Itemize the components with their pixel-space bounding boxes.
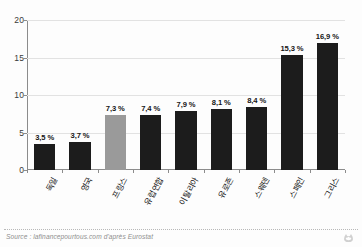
y-axis-tick-label: 20 (4, 15, 24, 25)
bar-group[interactable]: 15,3 % (281, 20, 302, 170)
bar[interactable] (281, 55, 302, 170)
x-axis-category-label: 프랑스 (108, 174, 130, 200)
bar-value-label: 8,1 % (212, 98, 231, 107)
bar-value-label: 3,5 % (35, 133, 54, 142)
x-axis-category-label: 영국 (77, 174, 95, 193)
brand-logo-icon (342, 233, 355, 243)
bar[interactable] (69, 142, 90, 170)
bar-group[interactable]: 3,5 % (34, 20, 55, 170)
bar-group[interactable]: 8,4 % (246, 20, 267, 170)
bar-group[interactable]: 16,9 % (317, 20, 338, 170)
y-axis-tick-label: 5 (4, 128, 24, 138)
bar-group[interactable]: 7,3 % (105, 20, 126, 170)
x-axis-category-label: 그리스 (320, 174, 342, 200)
x-axis-category-label: 스페인 (285, 174, 307, 200)
source-note: Source : lafinancepourtous.com d'après E… (6, 233, 153, 240)
bar-value-label: 7,3 % (106, 104, 125, 113)
chart-figure: 05101520 3,5 %3,7 %7,3 %7,4 %7,9 %8,1 %8… (0, 0, 362, 247)
bar-group[interactable]: 8,1 % (211, 20, 232, 170)
bar[interactable] (175, 111, 196, 170)
x-axis-tick-mark (204, 170, 205, 173)
x-axis-category-label: 독일 (41, 174, 59, 193)
bar[interactable] (317, 43, 338, 170)
bar-value-label: 8,4 % (247, 96, 266, 105)
bar[interactable] (211, 109, 232, 170)
x-axis-tick-mark (133, 170, 134, 173)
x-axis-category-label: 유로존 (214, 174, 236, 200)
x-axis-category-label: 유럽연합 (140, 174, 165, 207)
bar-value-label: 3,7 % (71, 131, 90, 140)
bar-value-label: 7,9 % (177, 100, 196, 109)
bar[interactable] (34, 144, 55, 170)
y-axis-tick-label: 15 (4, 53, 24, 63)
bar-value-label: 7,4 % (141, 104, 160, 113)
bar[interactable] (105, 115, 126, 170)
x-axis-tick-mark (274, 170, 275, 173)
bar-value-label: 15,3 % (280, 44, 303, 53)
x-axis-category-label: 스웨덴 (250, 174, 272, 200)
bar-group[interactable]: 7,9 % (175, 20, 196, 170)
x-axis-category-label: 이탈리아 (175, 174, 200, 207)
x-axis-tick-mark (345, 170, 346, 173)
x-axis-tick-mark (98, 170, 99, 173)
x-axis-tick-mark (62, 170, 63, 173)
footer-divider (4, 229, 358, 230)
y-axis-tick-label: 0 (4, 165, 24, 175)
bar[interactable] (140, 115, 161, 171)
bar-series: 3,5 %3,7 %7,3 %7,4 %7,9 %8,1 %8,4 %15,3 … (27, 20, 345, 170)
bar-group[interactable]: 3,7 % (69, 20, 90, 170)
x-axis-tick-mark (239, 170, 240, 173)
bar[interactable] (246, 107, 267, 170)
bar-value-label: 16,9 % (316, 32, 339, 41)
bar-group[interactable]: 7,4 % (140, 20, 161, 170)
x-axis-tick-mark (168, 170, 169, 173)
y-axis-tick-label: 10 (4, 90, 24, 100)
x-axis-tick-mark (27, 170, 28, 173)
x-axis-tick-mark (310, 170, 311, 173)
